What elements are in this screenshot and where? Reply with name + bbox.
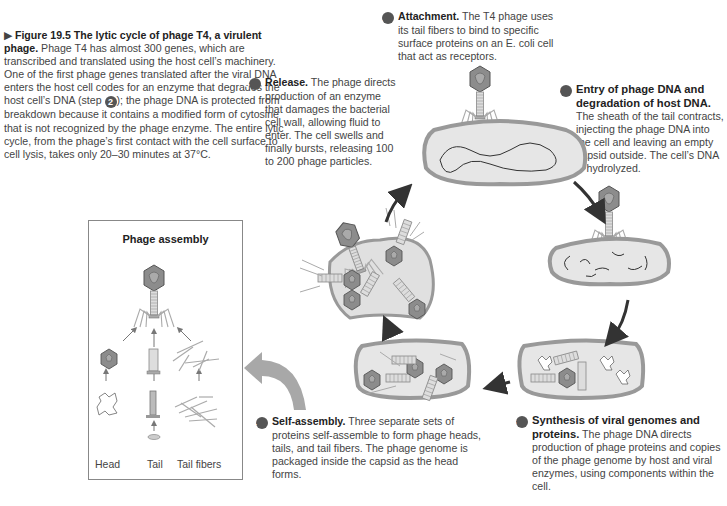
cell-synthesis <box>519 340 643 398</box>
assembly-artwork <box>89 221 242 451</box>
assembly-arrow <box>244 352 306 410</box>
cell-entry <box>550 186 669 284</box>
assembly-label-tail-fibers: Tail fibers <box>177 458 221 470</box>
phage-assembly-panel: Phage assembly Head Tail Tail fibe <box>88 220 243 480</box>
cell-release <box>300 208 433 319</box>
assembly-label-tail: Tail <box>147 458 163 470</box>
cell-attachment <box>424 66 585 184</box>
cell-assembly <box>356 340 469 400</box>
assembly-label-head: Head <box>95 458 120 470</box>
